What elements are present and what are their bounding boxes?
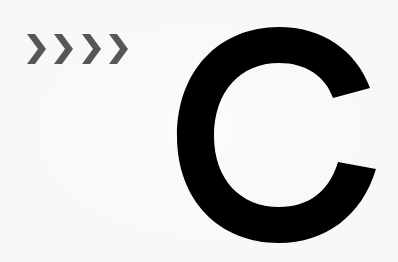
letter-c-shape xyxy=(177,27,376,243)
large-letter-c: C xyxy=(172,24,382,246)
chevron-right-icon xyxy=(27,34,46,64)
chevron-right-icon xyxy=(82,34,101,64)
chevron-right-icon xyxy=(54,34,73,64)
chevrons-icon: >>>> xyxy=(26,33,130,65)
chevron-right-icon xyxy=(109,34,128,64)
graphic-canvas: >>>> C xyxy=(0,0,398,262)
